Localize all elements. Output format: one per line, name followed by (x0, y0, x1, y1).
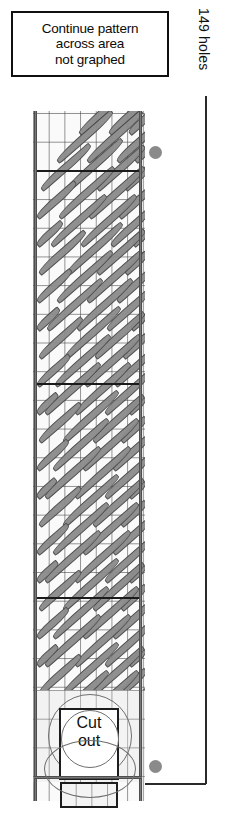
note-line-3: not graphed (55, 52, 125, 68)
registration-dot-top (149, 146, 162, 159)
note-box: Continue pattern across area not graphed (11, 11, 169, 77)
section-divider (34, 170, 142, 172)
dimension-label-149-holes: 149 holes (196, 8, 212, 71)
cutout-rail-left (34, 690, 37, 782)
registration-dot-bottom (149, 760, 162, 773)
section-divider (34, 597, 142, 599)
note-line-1: Continue pattern (42, 21, 139, 37)
section-divider (34, 383, 142, 385)
diagram-canvas: Continue pattern across area not graphed… (0, 0, 228, 828)
cutout-rail-right (139, 690, 142, 782)
bottom-tab (60, 782, 118, 808)
cutout-label-line-1: Cut (59, 714, 119, 732)
dimension-vertical-line (205, 96, 207, 784)
bottom-tab-arc (44, 740, 136, 798)
note-line-2: across area (56, 36, 124, 52)
